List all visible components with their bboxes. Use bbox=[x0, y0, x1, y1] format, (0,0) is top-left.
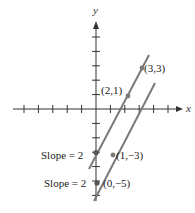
x-axis-label: x bbox=[185, 102, 191, 114]
x-axis-arrow-icon bbox=[176, 106, 183, 112]
slope-label-line-2: Slope = 2 bbox=[44, 177, 86, 189]
point-label-1-m3: (1,−3) bbox=[116, 149, 144, 162]
point-2-1-marker-icon bbox=[126, 94, 131, 99]
point-0-m5-marker-icon bbox=[94, 180, 99, 185]
point-label-3-3: (3,3) bbox=[144, 62, 165, 75]
y-axis-label: y bbox=[92, 4, 98, 16]
point-label-0-m5: (0,−5) bbox=[103, 177, 131, 190]
point-1-m3-marker-icon bbox=[111, 153, 116, 158]
y-axis-arrow-icon bbox=[93, 21, 99, 29]
point-0-m3-marker-icon bbox=[93, 150, 98, 155]
slope-label-line-1: Slope = 2 bbox=[41, 149, 83, 161]
x-axis: x bbox=[13, 102, 191, 114]
point-label-2-1: (2,1) bbox=[101, 84, 122, 97]
y-axis: y bbox=[92, 4, 100, 201]
coordinate-diagram: x y (3,3) (2,1) (1,−3 bbox=[0, 0, 195, 213]
